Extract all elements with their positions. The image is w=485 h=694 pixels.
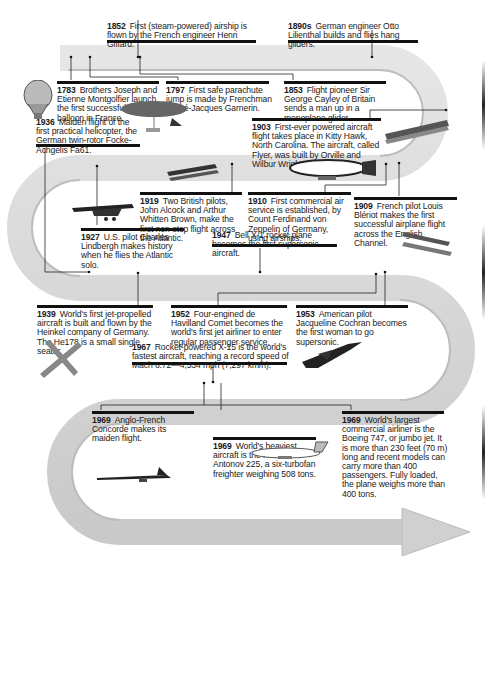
airship-icon xyxy=(120,100,192,140)
event-1969-boeing: 1969World's largest commercial airliner … xyxy=(342,416,448,499)
event-rule xyxy=(296,305,408,308)
hot-air-balloon-icon xyxy=(22,80,54,120)
zeppelin-icon xyxy=(288,158,378,182)
event-1853: 1853Flight pioneer Sir George Cayley of … xyxy=(284,86,384,123)
event-rule xyxy=(92,411,194,414)
event-rule xyxy=(140,192,242,195)
event-rule xyxy=(37,305,153,308)
event-1890s: 1890sGerman engineer Otto Lilienthal bui… xyxy=(288,22,423,50)
heinkel-jet-icon xyxy=(38,338,82,378)
event-1927: 1927U.S. pilot Charles Lindbergh makes h… xyxy=(81,233,189,270)
event-1969-concorde: 1969Anglo-French Concorde makes its maid… xyxy=(92,416,196,444)
flight-history-timeline: 1852First (steam-powered) airship is flo… xyxy=(0,0,485,694)
event-1947: 1947Bell X-1 rocket plane becomes the fi… xyxy=(212,231,340,259)
event-rule xyxy=(284,81,386,84)
event-1967: 1967Rocket-powered X-15 is the world's f… xyxy=(132,343,290,371)
concorde-icon xyxy=(97,465,175,485)
x15-rocket-plane-icon xyxy=(298,340,364,370)
event-rule xyxy=(166,81,269,84)
event-1852: 1852First (steam-powered) airship is flo… xyxy=(107,22,259,50)
event-rule xyxy=(171,305,287,308)
event-rule xyxy=(354,197,457,200)
event-rule xyxy=(57,81,159,84)
boeing-747-icon xyxy=(250,440,332,462)
bleriot-monoplane-icon xyxy=(400,228,454,258)
vimy-biplane-icon xyxy=(165,160,225,186)
spirit-of-st-louis-icon xyxy=(72,200,136,222)
event-rule xyxy=(248,192,351,195)
event-rule xyxy=(342,411,444,414)
wright-flyer-icon xyxy=(383,118,451,146)
